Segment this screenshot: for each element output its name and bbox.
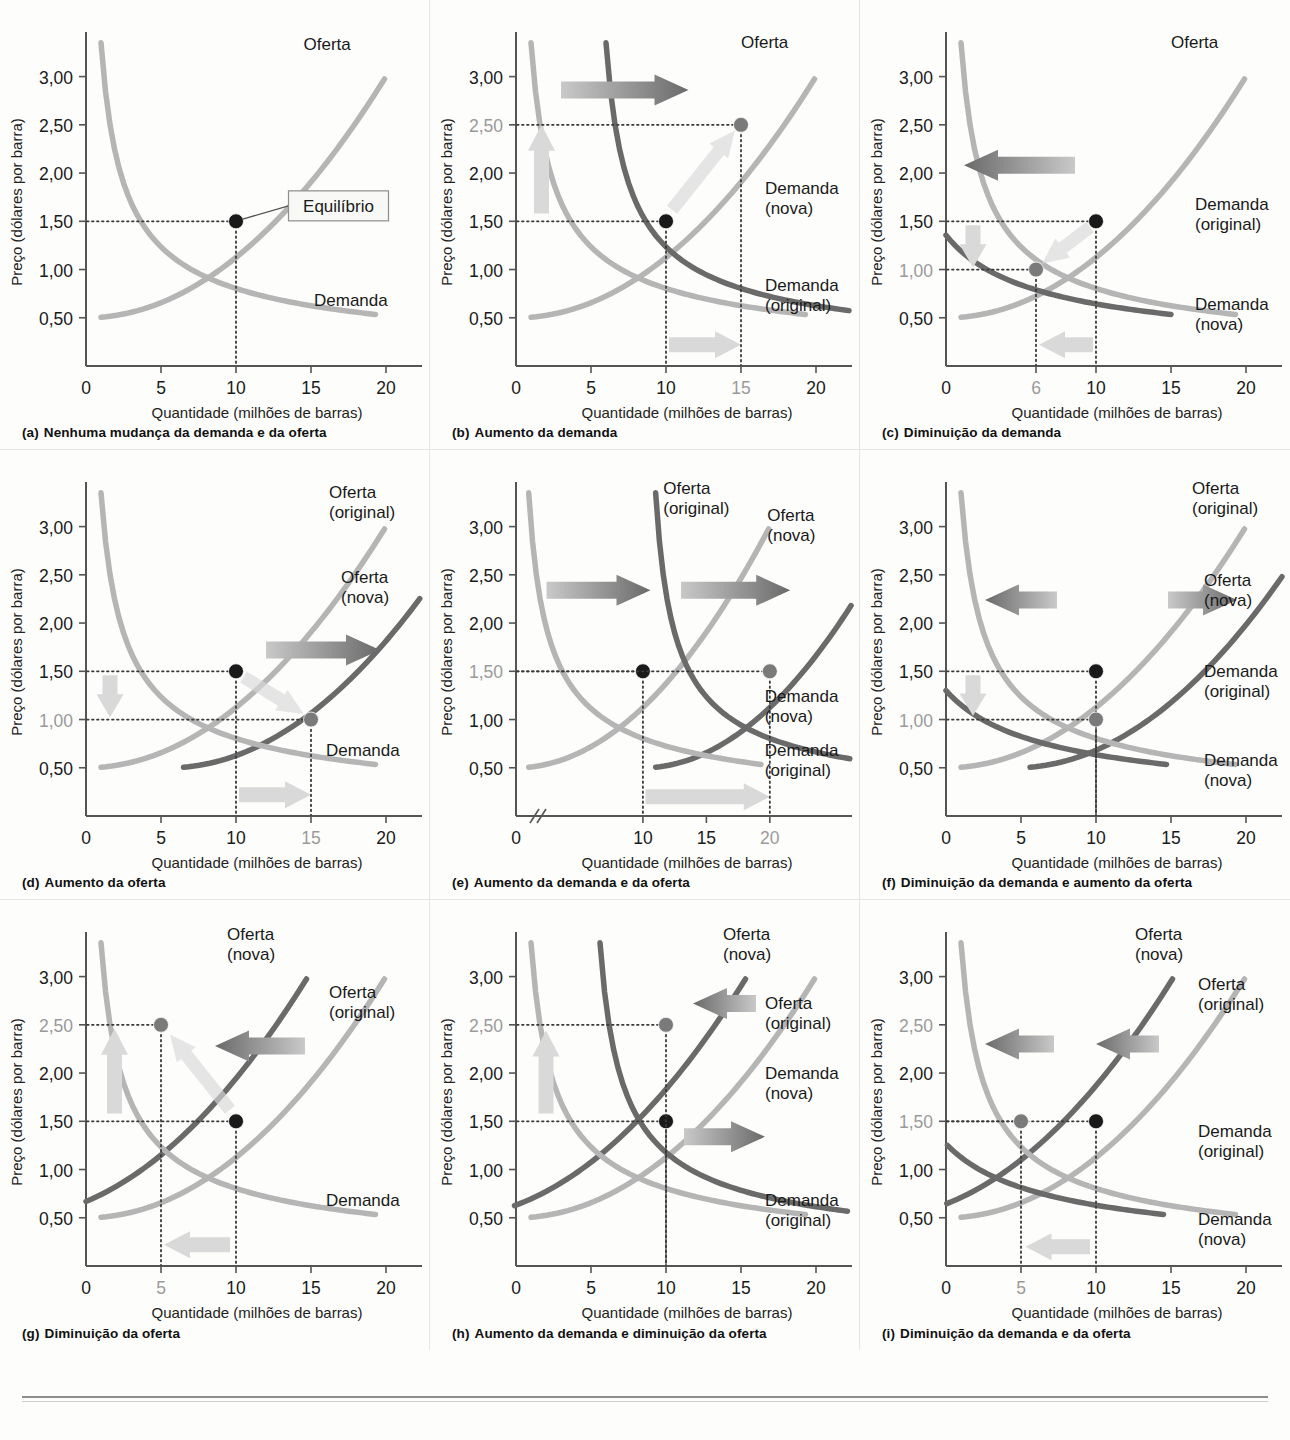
x-axis-title: Quantidade (milhões de barras) — [1012, 854, 1223, 871]
svg-text:Oferta: Oferta — [741, 33, 789, 52]
x-tick-label: 0 — [941, 828, 951, 848]
panel-caption-i: (i)Diminuição da demanda e da oferta — [882, 1326, 1284, 1342]
svg-text:Demanda: Demanda — [1204, 751, 1278, 770]
y-tick-label: 3,00 — [469, 68, 503, 88]
y-tick-label: 2,00 — [39, 164, 73, 184]
y-axis-title: Preço (dólares por barra) — [438, 568, 455, 736]
y-tick-label: 1,50 — [39, 1112, 73, 1132]
x-tick-label: 10 — [656, 378, 676, 398]
equilibrium-point-new — [1089, 712, 1104, 727]
y-axis-title: Preço (dólares por barra) — [438, 1018, 455, 1186]
bottom-rule-secondary — [22, 1401, 1268, 1402]
y-tick-label: 1,50 — [469, 1112, 503, 1132]
figure-panel-grid: 0,501,001,502,002,503,0005101520Preço (d… — [0, 0, 1290, 1350]
curve-label-demand-original: Demanda — [326, 741, 400, 760]
shift-arrow-quantity-falls — [1026, 1233, 1091, 1260]
x-tick-label: 20 — [1236, 828, 1256, 848]
equilibrium-point-original — [229, 214, 244, 229]
equilibrium-point-original — [229, 664, 244, 679]
x-tick-label: 15 — [731, 1278, 750, 1298]
svg-text:Demanda: Demanda — [765, 687, 839, 706]
svg-text:(nova): (nova) — [765, 199, 813, 218]
shift-arrow-quantity-rises — [669, 331, 741, 358]
svg-text:(original): (original) — [765, 1014, 831, 1033]
y-axis-title: Preço (dólares por barra) — [868, 568, 885, 736]
curve-label-demand-original: Demanda(original) — [1195, 195, 1269, 234]
curve-demand-original — [529, 493, 761, 765]
shift-arrow-demand-shift-right — [684, 1121, 765, 1152]
svg-text:Oferta: Oferta — [1204, 571, 1252, 590]
curve-demand-original — [961, 43, 1236, 315]
y-tick-label: 2,50 — [469, 116, 503, 136]
curve-label-supply-new: Oferta(nova) — [1135, 925, 1183, 964]
svg-text:(original): (original) — [1198, 1142, 1264, 1161]
chart-panel-h: 0,501,001,502,002,503,0005101520Preço (d… — [430, 900, 860, 1350]
y-tick-label: 1,00 — [469, 711, 503, 731]
panel-caption-text: Diminuição da oferta — [45, 1326, 181, 1341]
equilibrium-point-original — [229, 1114, 244, 1129]
x-tick-label: 20 — [806, 1278, 826, 1298]
y-tick-label: 1,50 — [899, 662, 933, 682]
curve-label-supply-new: Oferta(nova) — [341, 568, 389, 607]
y-tick-label: 0,50 — [469, 1209, 503, 1229]
x-tick-label: 5 — [586, 1278, 596, 1298]
y-tick-label: 1,00 — [39, 1161, 73, 1181]
curve-label-supply-original: Oferta(original) — [329, 983, 395, 1022]
svg-text:Oferta: Oferta — [1135, 925, 1183, 944]
y-tick-label: 1,00 — [469, 261, 503, 281]
curve-label-demand-original: Demanda(original) — [1204, 662, 1278, 701]
curve-label-demand-original: Demanda(original) — [765, 741, 839, 780]
curve-label-supply-new: Oferta(nova) — [227, 925, 275, 964]
chart-panel-c: 0,501,001,502,002,503,0006101520Preço (d… — [860, 0, 1290, 450]
y-tick-label: 3,00 — [469, 518, 503, 538]
x-tick-label: 0 — [81, 1278, 91, 1298]
y-tick-label: 1,00 — [899, 711, 933, 731]
panel-caption-e: (e)Aumento da demanda e da oferta — [452, 875, 853, 891]
y-tick-label: 1,00 — [899, 1161, 933, 1181]
y-tick-label: 2,00 — [469, 1064, 503, 1084]
x-tick-label: 15 — [731, 378, 750, 398]
equilibrium-callout-label: Equilíbrio — [303, 197, 374, 216]
svg-text:(nova): (nova) — [227, 945, 275, 964]
svg-text:Demanda: Demanda — [326, 1191, 400, 1210]
svg-text:Oferta: Oferta — [663, 479, 711, 498]
svg-text:(nova): (nova) — [765, 1084, 813, 1103]
chart-panel-b: 0,501,001,502,002,503,0005101520Preço (d… — [430, 0, 860, 450]
curve-label-demand-new: Demanda(nova) — [765, 1064, 839, 1103]
x-tick-label: 10 — [1086, 1278, 1106, 1298]
x-tick-label: 0 — [81, 828, 91, 848]
equilibrium-point-new — [1029, 262, 1044, 277]
curve-label-demand-original: Demanda(original) — [765, 1191, 839, 1230]
y-tick-label: 0,50 — [899, 1209, 933, 1229]
svg-text:Oferta: Oferta — [329, 983, 377, 1002]
x-tick-label: 20 — [376, 828, 396, 848]
x-axis-title: Quantidade (milhões de barras) — [582, 854, 793, 871]
y-tick-label: 2,00 — [39, 1064, 73, 1084]
curve-label-supply-original: Oferta — [741, 33, 789, 52]
panel-caption-label: (g) — [22, 1326, 40, 1341]
x-tick-label: 10 — [656, 1278, 676, 1298]
curve-label-supply-original: Oferta(original) — [1198, 975, 1264, 1014]
y-tick-label: 2,00 — [899, 1064, 933, 1084]
y-tick-label: 2,00 — [899, 614, 933, 634]
curve-supply-original — [529, 529, 769, 767]
shift-arrow-quantity-rises — [646, 783, 770, 810]
curve-label-supply-new: Oferta(nova) — [723, 925, 771, 964]
panel-caption-text: Aumento da demanda — [475, 425, 618, 440]
y-tick-label: 2,50 — [39, 566, 73, 586]
chart-panel-f: 0,501,001,502,002,503,0005101520Preço (d… — [860, 450, 1290, 900]
svg-text:Oferta: Oferta — [304, 35, 352, 54]
x-tick-label: 0 — [81, 378, 91, 398]
curve-label-supply-original: Oferta(original) — [765, 994, 831, 1033]
x-tick-label: 10 — [633, 828, 653, 848]
curve-label-demand-new: Demanda(nova) — [1204, 751, 1278, 790]
equilibrium-point-new — [734, 117, 749, 132]
x-tick-label: 0 — [941, 378, 951, 398]
equilibrium-point-original — [659, 214, 674, 229]
y-tick-label: 1,50 — [469, 662, 503, 682]
curve-label-supply-original: Oferta(original) — [663, 479, 729, 518]
curve-label-supply-new: Oferta(nova) — [767, 506, 815, 545]
svg-text:(original): (original) — [329, 503, 395, 522]
x-tick-label: 20 — [760, 828, 780, 848]
y-tick-label: 3,00 — [39, 968, 73, 988]
